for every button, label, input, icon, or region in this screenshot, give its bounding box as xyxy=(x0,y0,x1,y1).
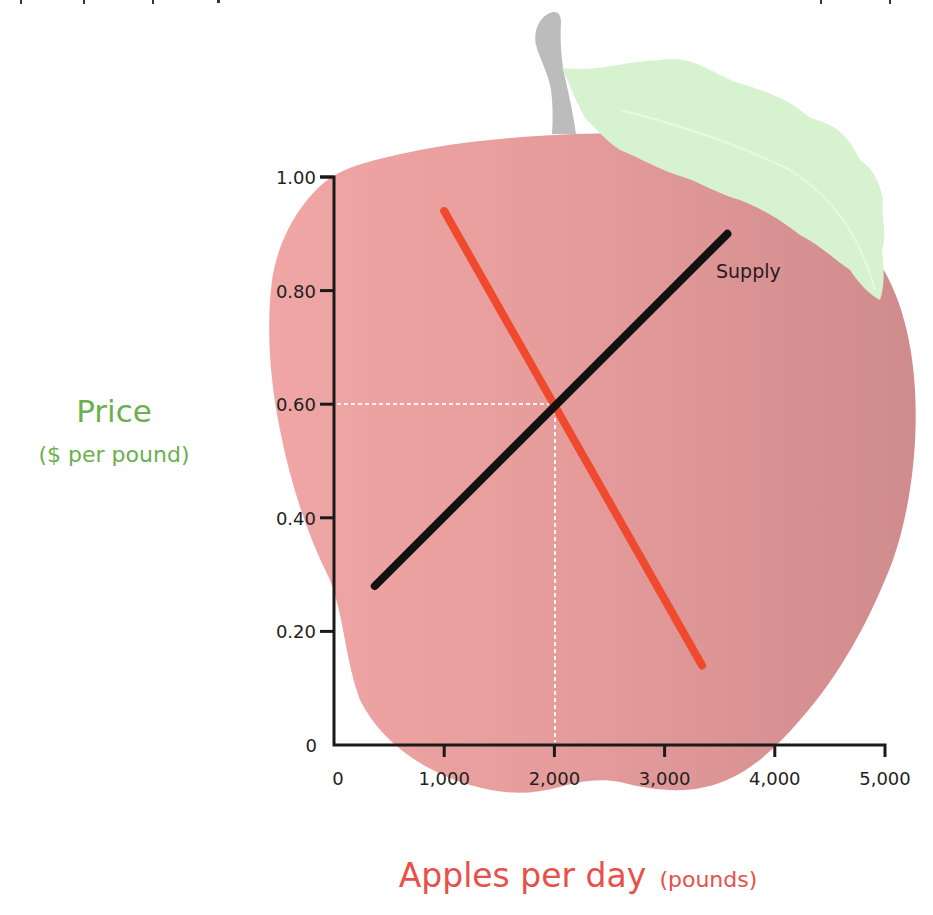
x-axis-title: Apples per day (pounds) xyxy=(399,856,758,895)
x-tick-label: 5,000 xyxy=(859,768,911,789)
x-tick-label: 0 xyxy=(332,768,343,789)
x-axis-title-main: Apples per day xyxy=(399,856,647,895)
y-axis-title: Price xyxy=(76,393,152,429)
x-tick-label: 4,000 xyxy=(749,768,801,789)
y-tick-label: 1.00 xyxy=(276,167,316,188)
apple-illustration xyxy=(269,12,916,793)
y-tick-label: 0.60 xyxy=(276,394,316,415)
y-tick-label: 0.80 xyxy=(276,281,316,302)
y-axis-unit: ($ per pound) xyxy=(39,442,190,467)
cropped-top-text xyxy=(20,0,891,4)
x-tick-label: 3,000 xyxy=(639,768,691,789)
y-tick-label: 0.40 xyxy=(276,508,316,529)
y-tick-label: 0 xyxy=(306,735,317,756)
y-tick-label: 0.20 xyxy=(276,621,316,642)
supply-label: Supply xyxy=(716,260,781,282)
supply-demand-chart: Supply 00.200.400.600.801.00 01,0002,000… xyxy=(0,0,933,915)
x-tick-label: 1,000 xyxy=(418,768,470,789)
x-tick-label: 2,000 xyxy=(529,768,581,789)
x-axis-title-unit: (pounds) xyxy=(659,867,757,892)
